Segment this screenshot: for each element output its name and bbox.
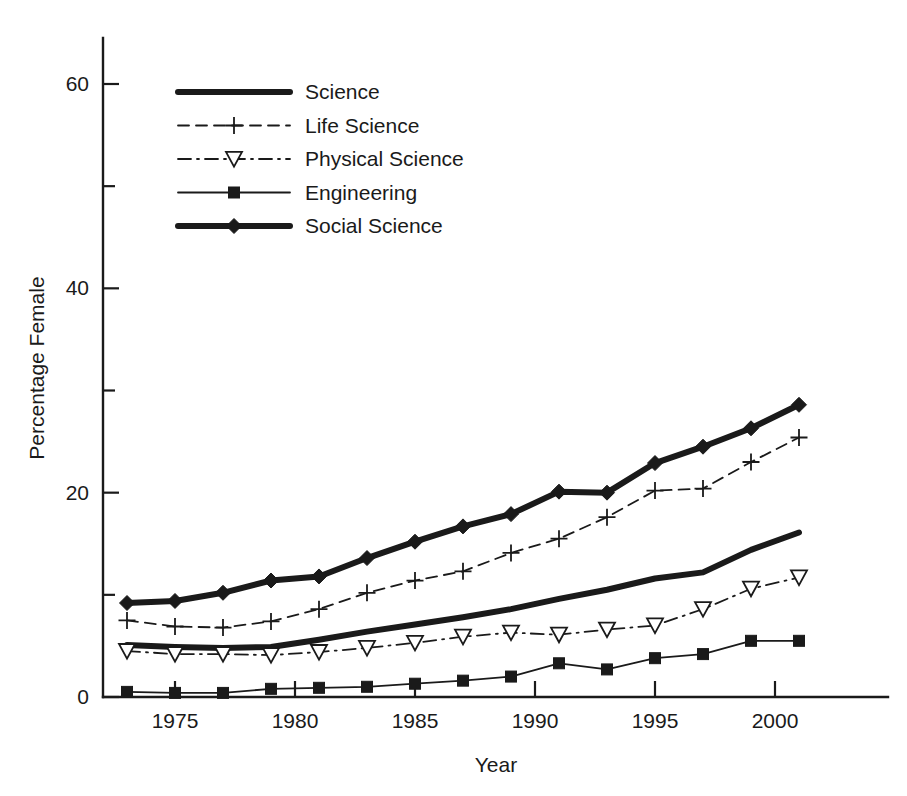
legend-label: Physical Science: [305, 147, 464, 170]
marker-plus: [119, 612, 136, 629]
marker-diamond: [120, 596, 135, 611]
y-axis-ticks: [103, 84, 119, 697]
marker-plus: [743, 454, 760, 471]
marker-plus: [455, 563, 472, 580]
legend-item-social-science: Social Science: [178, 214, 443, 237]
marker-square: [794, 635, 805, 646]
marker-plus: [551, 530, 568, 547]
marker-plus: [647, 482, 664, 499]
marker-square: [410, 678, 421, 689]
marker-plus: [503, 544, 520, 561]
y-axis-tick-labels: 0204060: [66, 72, 89, 708]
marker-square: [746, 635, 757, 646]
line-chart-canvas: 0204060 197519801985199019952000 Percent…: [0, 0, 907, 796]
marker-square: [229, 187, 240, 198]
marker-square: [698, 649, 709, 660]
y-tick-label: 20: [66, 481, 89, 504]
marker-plus: [695, 480, 712, 497]
x-tick-label: 1980: [272, 709, 319, 732]
marker-diamond: [227, 219, 242, 234]
marker-diamond: [408, 534, 423, 549]
legend-label: Engineering: [305, 181, 417, 204]
marker-square: [506, 671, 517, 682]
marker-down-triangle: [695, 602, 711, 617]
y-tick-label: 60: [66, 72, 89, 95]
marker-plus: [167, 618, 184, 635]
marker-plus: [215, 619, 232, 636]
x-tick-label: 1995: [632, 709, 679, 732]
marker-plus: [226, 117, 243, 134]
legend-item-science: Science: [178, 80, 380, 103]
marker-plus: [311, 601, 328, 618]
y-tick-label: 0: [77, 685, 89, 708]
marker-square: [554, 658, 565, 669]
y-axis-title: Percentage Female: [25, 276, 48, 459]
marker-plus: [407, 572, 424, 589]
marker-square: [602, 664, 613, 675]
marker-square: [266, 683, 277, 694]
marker-diamond: [168, 593, 183, 608]
marker-plus: [359, 584, 376, 601]
marker-diamond: [696, 439, 711, 454]
x-tick-label: 1990: [512, 709, 559, 732]
marker-down-triangle: [791, 570, 807, 585]
x-tick-label: 2000: [752, 709, 799, 732]
legend-label: Life Science: [305, 114, 419, 137]
marker-square: [170, 687, 181, 698]
marker-square: [362, 681, 373, 692]
marker-square: [458, 675, 469, 686]
legend-label: Science: [305, 80, 380, 103]
chart-legend: ScienceLife SciencePhysical ScienceEngin…: [178, 80, 464, 237]
legend-item-physical-science: Physical Science: [178, 147, 464, 170]
marker-diamond: [360, 551, 375, 566]
y-tick-label: 40: [66, 276, 89, 299]
marker-plus: [599, 509, 616, 526]
legend-item-life-science: Life Science: [178, 114, 419, 137]
legend-label: Social Science: [305, 214, 443, 237]
marker-square: [314, 682, 325, 693]
legend-item-engineering: Engineering: [178, 181, 417, 204]
marker-diamond: [456, 519, 471, 534]
marker-diamond: [312, 569, 327, 584]
x-tick-label: 1985: [392, 709, 439, 732]
chart-figure: 0204060 197519801985199019952000 Percent…: [0, 0, 907, 796]
marker-diamond: [216, 585, 231, 600]
marker-square: [650, 653, 661, 664]
x-axis-title: Year: [475, 753, 517, 776]
marker-plus: [791, 429, 808, 446]
marker-diamond: [264, 573, 279, 588]
marker-square: [218, 687, 229, 698]
x-tick-label: 1975: [152, 709, 199, 732]
marker-square: [122, 686, 133, 697]
marker-down-triangle: [743, 582, 759, 597]
marker-plus: [263, 613, 280, 630]
x-axis-tick-labels: 197519801985199019952000: [152, 709, 799, 732]
data-series-group: [119, 397, 808, 698]
